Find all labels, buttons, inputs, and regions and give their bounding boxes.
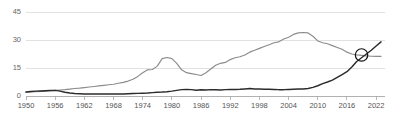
x-axis-tick-labels: 1950195619621968197419801986199219982004…: [18, 101, 385, 110]
y-tick-label-15: 15: [13, 63, 21, 72]
x-tick-label-1986: 1986: [193, 101, 210, 110]
y-tick-label-0: 0: [17, 91, 21, 100]
x-axis: [26, 96, 385, 100]
x-tick-label-1980: 1980: [164, 101, 181, 110]
x-tick-label-1968: 1968: [105, 101, 122, 110]
line-chart: 0153045 19501956196219681974198019861992…: [0, 0, 396, 122]
x-tick-label-1992: 1992: [222, 101, 239, 110]
x-tick-label-1950: 1950: [18, 101, 35, 110]
gridlines: [26, 12, 385, 68]
x-tick-label-1962: 1962: [76, 101, 93, 110]
x-tick-label-1956: 1956: [47, 101, 64, 110]
line-series-gray: [26, 33, 381, 93]
x-tick-label-1974: 1974: [134, 101, 151, 110]
x-tick-label-2016: 2016: [339, 101, 356, 110]
x-tick-label-2004: 2004: [280, 101, 297, 110]
y-axis-tick-labels: 0153045: [13, 7, 21, 100]
chart-canvas: 0153045 19501956196219681974198019861992…: [0, 0, 396, 122]
x-tick-label-2022: 2022: [368, 101, 385, 110]
x-tick-label-1998: 1998: [251, 101, 268, 110]
x-tick-label-2010: 2010: [309, 101, 326, 110]
y-tick-label-45: 45: [13, 7, 21, 16]
y-tick-label-30: 30: [13, 35, 21, 44]
data-series: [26, 33, 381, 94]
